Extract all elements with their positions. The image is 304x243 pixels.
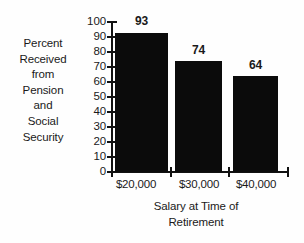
y-tick-label: 60: [72, 76, 106, 88]
x-axis-tick: [170, 167, 172, 177]
bar-chart: Percent Received from Pension and Social…: [0, 0, 304, 243]
y-tick-label: 30: [72, 121, 106, 133]
x-axis-tick: [111, 167, 113, 177]
bar-value-40000: 64: [233, 59, 278, 71]
x-axis-title-line: Salary at Time of: [96, 199, 296, 215]
y-tick-label: 90: [72, 31, 106, 43]
x-axis-tick: [287, 167, 289, 177]
y-axis-title-line: and: [4, 98, 82, 114]
y-axis-title-line: Social: [4, 114, 82, 130]
bar-value-30000: 74: [175, 44, 222, 56]
x-axis-tick: [228, 167, 230, 177]
y-axis-title-line: Received: [4, 52, 82, 68]
x-axis-title-line: Retirement: [96, 215, 296, 231]
x-axis-title: Salary at Time of Retirement: [96, 199, 296, 230]
bar-30000: [175, 61, 222, 172]
y-tick-label: 40: [72, 106, 106, 118]
y-tick-label: 10: [72, 151, 106, 163]
y-axis-title-line: Pension: [4, 83, 82, 99]
y-tick-label: 80: [72, 46, 106, 58]
y-tick-label: 100: [72, 16, 106, 28]
x-tick-label-40000: $40,000: [226, 178, 286, 190]
y-axis-title-line: Percent: [4, 36, 82, 52]
y-axis-title: Percent Received from Pension and Social…: [4, 36, 82, 145]
y-tick-label: 0: [72, 166, 106, 178]
bar-40000: [233, 76, 278, 172]
x-tick-label-30000: $30,000: [169, 178, 229, 190]
y-tick-label: 70: [72, 61, 106, 73]
y-axis-title-line: from: [4, 67, 82, 83]
x-tick-label-20000: $20,000: [106, 178, 166, 190]
bar-value-20000: 93: [115, 15, 168, 27]
bar-20000: [115, 33, 168, 173]
y-tick-label: 20: [72, 136, 106, 148]
y-axis-title-line: Security: [4, 130, 82, 146]
y-tick-label: 50: [72, 91, 106, 103]
